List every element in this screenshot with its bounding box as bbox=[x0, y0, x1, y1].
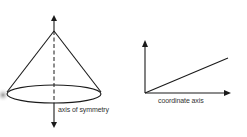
axis-of-symmetry-label: axis of symmetry bbox=[58, 106, 109, 113]
cone-base-ellipse bbox=[7, 85, 101, 103]
diagram-canvas bbox=[0, 0, 247, 137]
coordinate-axis-label: coordinate axis bbox=[158, 97, 204, 104]
coordinate-axis-diagram bbox=[142, 40, 231, 96]
arrow-up-icon bbox=[142, 40, 148, 47]
arrow-right-icon bbox=[224, 90, 231, 96]
vector-line bbox=[145, 58, 228, 93]
cone-right-side bbox=[54, 31, 101, 92]
arrow-up-icon bbox=[51, 15, 57, 21]
cone-left-side bbox=[7, 31, 54, 92]
arrow-down-icon bbox=[51, 122, 57, 128]
